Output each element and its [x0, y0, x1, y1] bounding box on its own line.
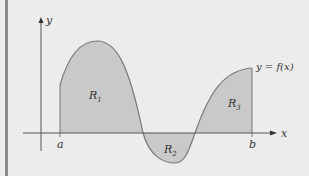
area-under-curve-diagram: y x a b y = f(x) R1 R2 R3: [0, 0, 309, 182]
x-axis-label: x: [281, 127, 288, 140]
curve-label: y = f(x): [255, 61, 294, 72]
y-axis-label: y: [45, 14, 53, 27]
left-bar: [5, 0, 8, 176]
bound-b-label: b: [249, 138, 256, 151]
bound-a-label: a: [57, 138, 64, 151]
